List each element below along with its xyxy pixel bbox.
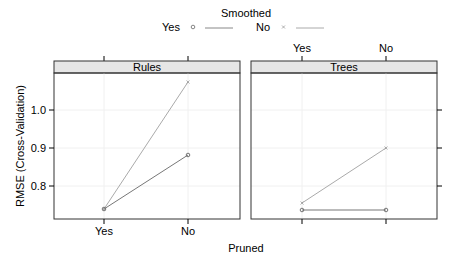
legend-label-no: No	[256, 21, 270, 33]
legend-circle-icon	[191, 25, 195, 29]
y-tick-label-0-9: 0.9	[31, 142, 46, 154]
y-tick-label-0-8: 0.8	[31, 180, 46, 192]
trellis-chart: Smoothed Yes No Yes No Rules	[0, 0, 456, 264]
panel-trees: Trees	[251, 61, 437, 219]
panel-frame-trees	[251, 73, 437, 219]
grid-rules	[54, 73, 240, 219]
strip-label-trees: Trees	[330, 61, 358, 73]
y-axis-title: RMSE (Cross-Validation)	[14, 85, 26, 207]
left-axis-ticks	[49, 110, 54, 186]
bottom-axis-label-no: No	[181, 225, 195, 237]
bottom-axis-ticks	[104, 219, 386, 224]
bottom-axis-label-yes: Yes	[95, 225, 113, 237]
line-rules-yes	[104, 155, 188, 209]
line-rules-no	[104, 82, 188, 209]
top-axis-label-no: No	[379, 42, 393, 54]
legend-cross-icon	[282, 26, 285, 29]
panel-rules: Rules	[54, 61, 240, 219]
x-axis-title: Pruned	[228, 242, 263, 254]
y-tick-label-1-0: 1.0	[31, 104, 46, 116]
line-trees-no	[302, 148, 386, 203]
top-axis-label-yes: Yes	[293, 42, 311, 54]
legend-title: Smoothed	[221, 7, 271, 19]
right-axis-ticks	[437, 110, 442, 186]
grid-trees	[251, 73, 437, 219]
strip-label-rules: Rules	[133, 61, 162, 73]
panel-frame-rules	[54, 73, 240, 219]
legend-label-yes: Yes	[162, 21, 180, 33]
